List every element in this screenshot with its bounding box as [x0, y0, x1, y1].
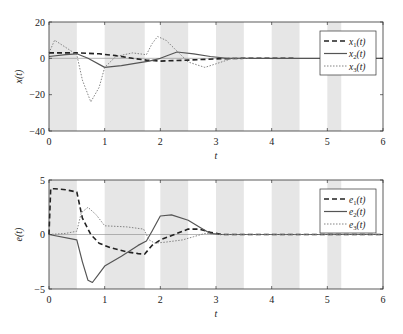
x-tick-label: 4 [269, 294, 274, 305]
x-tick-label: 5 [325, 294, 330, 305]
legend-entry: e3(t) [349, 220, 365, 231]
legend-entry: e2(t) [349, 207, 365, 218]
x-tick-label: 2 [158, 294, 163, 305]
legend-entry: x1(t) [348, 37, 365, 48]
x-tick-label: 6 [381, 136, 386, 147]
x-tick-label: 1 [102, 294, 107, 305]
x-tick-label: 2 [158, 136, 163, 147]
y-axis-label: e(t) [13, 227, 25, 242]
top-axes-x: 0123456200−20−40tx(t)x1(t)x2(t)x3(t) [13, 17, 386, 162]
figure: 0123456200−20−40tx(t)x1(t)x2(t)x3(t) 012… [0, 0, 403, 334]
shaded-interval [160, 22, 188, 131]
x-tick-label: 3 [214, 294, 219, 305]
y-tick-label: 20 [35, 17, 45, 28]
y-axis-label: x(t) [13, 69, 25, 85]
y-tick-label: 0 [40, 229, 45, 240]
legend-entry: e1(t) [349, 195, 365, 206]
x-tick-label: 0 [47, 294, 52, 305]
x-tick-label: 4 [269, 136, 274, 147]
x-tick-label: 3 [214, 136, 219, 147]
y-tick-label: −5 [34, 284, 45, 295]
legend-entry: x2(t) [348, 49, 365, 60]
bottom-axes-e: 012345650−5te(t)e1(t)e2(t)e3(t) [13, 175, 386, 320]
y-tick-label: 0 [40, 53, 45, 64]
x-axis-label: t [215, 308, 218, 319]
legend: e1(t)e2(t)e3(t) [320, 189, 376, 233]
y-tick-label: −20 [29, 89, 45, 100]
shaded-interval [49, 22, 77, 131]
y-tick-label: −40 [29, 126, 45, 137]
x-tick-label: 6 [381, 294, 386, 305]
y-tick-label: 5 [40, 175, 45, 186]
legend-entry: x3(t) [348, 62, 365, 73]
x-tick-label: 0 [47, 136, 52, 147]
shaded-interval [272, 22, 300, 131]
shaded-interval [105, 22, 145, 131]
shaded-interval [216, 22, 244, 131]
x-tick-label: 1 [102, 136, 107, 147]
legend: x1(t)x2(t)x3(t) [320, 31, 376, 75]
x-axis-label: t [215, 150, 218, 161]
x-tick-label: 5 [325, 136, 330, 147]
